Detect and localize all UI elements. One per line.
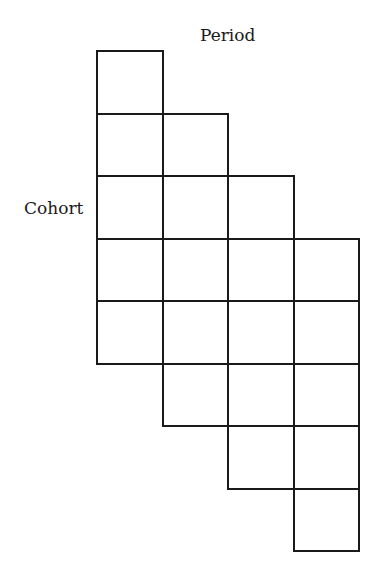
period-axis-label: Period xyxy=(200,25,255,45)
grid-cell xyxy=(96,175,164,240)
grid-cell xyxy=(96,238,164,302)
grid-cell xyxy=(293,300,360,365)
cohort-axis-label: Cohort xyxy=(24,198,83,218)
grid-cell xyxy=(293,238,360,302)
grid-cell xyxy=(96,50,164,115)
grid-cell xyxy=(227,425,295,490)
grid-cell xyxy=(293,425,360,490)
grid-cell xyxy=(227,300,295,365)
grid-cell xyxy=(162,300,229,365)
grid-cell xyxy=(162,113,229,177)
grid-cell xyxy=(227,175,295,240)
grid-cell xyxy=(227,363,295,427)
grid-cell xyxy=(96,300,164,365)
grid-cell xyxy=(162,175,229,240)
grid-cell xyxy=(227,238,295,302)
grid-cell xyxy=(96,113,164,177)
grid-cell xyxy=(162,363,229,427)
grid-cell xyxy=(293,363,360,427)
grid-cell xyxy=(293,488,360,552)
grid-cell xyxy=(162,238,229,302)
